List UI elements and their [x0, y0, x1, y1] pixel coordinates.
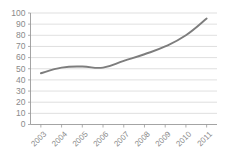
chart-canvas: 0102030405060708090100 20032004200520062… [0, 0, 233, 165]
y-tick-label: 30 [16, 86, 26, 96]
y-tick-label: 50 [16, 64, 26, 74]
y-tick-label: 90 [16, 19, 26, 29]
line-chart: 0102030405060708090100 20032004200520062… [0, 0, 233, 165]
y-tick-label: 70 [16, 41, 26, 51]
y-tick-label: 20 [16, 97, 26, 107]
y-tick-label: 60 [16, 52, 26, 62]
y-tick-label: 80 [16, 30, 26, 40]
y-tick-label: 40 [16, 75, 26, 85]
y-tick-label: 10 [16, 108, 26, 118]
y-tick-label: 0 [21, 119, 26, 129]
y-tick-label: 100 [11, 8, 25, 18]
